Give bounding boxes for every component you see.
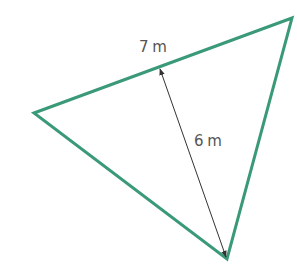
base-label: 7 m (139, 38, 166, 56)
height-arrow (160, 69, 226, 257)
height-label: 6 m (194, 132, 221, 150)
triangle-diagram: 7 m 6 m (0, 0, 297, 280)
